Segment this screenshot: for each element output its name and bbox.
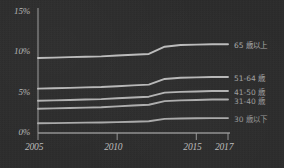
y-tick-label-0: 0% — [0, 127, 30, 137]
x-tick-label-1: 2010 — [104, 142, 122, 152]
series-label-0: 65 歳以上 — [234, 39, 267, 50]
y-tick-label-2: 10% — [0, 46, 30, 56]
series-line-0 — [38, 44, 228, 58]
x-tick-label-3: 2017 — [215, 142, 233, 152]
series-label-1: 51-64 歳 — [234, 72, 265, 83]
series-lines — [38, 44, 228, 123]
series-line-4 — [38, 118, 228, 123]
series-label-3: 31-40 歳 — [234, 95, 265, 106]
series-line-1 — [38, 77, 228, 89]
x-tick-label-2: 2015 — [183, 142, 201, 152]
x-tick-label-0: 2005 — [25, 142, 43, 152]
series-label-4: 30 歳以下 — [234, 113, 267, 124]
axis-lines — [38, 8, 230, 133]
y-tick-label-1: 5% — [0, 87, 30, 97]
y-tick-label-3: 15% — [0, 6, 30, 16]
line-chart: 0%5%10%15% 2005201020152017 65 歳以上51-64 … — [0, 0, 284, 168]
x-axis-ticks — [38, 133, 228, 140]
